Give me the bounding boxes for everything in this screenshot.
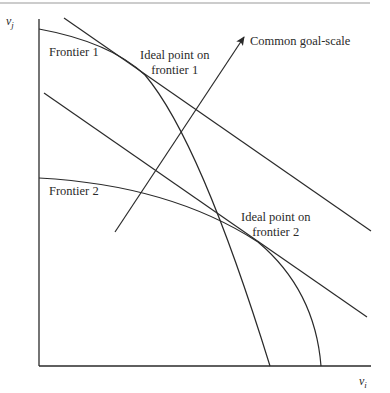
frontier-1-label: Frontier 1 — [49, 45, 99, 60]
ideal-point-2-label: Ideal point on frontier 2 — [241, 210, 310, 240]
y-axis-label: vj — [6, 14, 14, 30]
frontier-2-curve — [39, 178, 321, 366]
ideal-point-1-label: Ideal point on frontier 1 — [140, 48, 209, 78]
tangent-line-frontier-2 — [44, 93, 367, 317]
common-goal-scale-label: Common goal-scale — [250, 34, 350, 49]
x-axis-label: vi — [359, 374, 367, 390]
frontier-2-label: Frontier 2 — [49, 184, 99, 199]
tangent-line-frontier-1 — [64, 18, 371, 231]
